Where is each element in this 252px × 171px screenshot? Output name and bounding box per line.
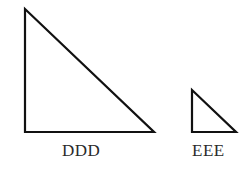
triangle-ddd <box>25 9 154 132</box>
triangle-eee <box>192 90 236 132</box>
label-eee: EEE <box>192 141 225 161</box>
label-ddd: DDD <box>62 141 100 161</box>
